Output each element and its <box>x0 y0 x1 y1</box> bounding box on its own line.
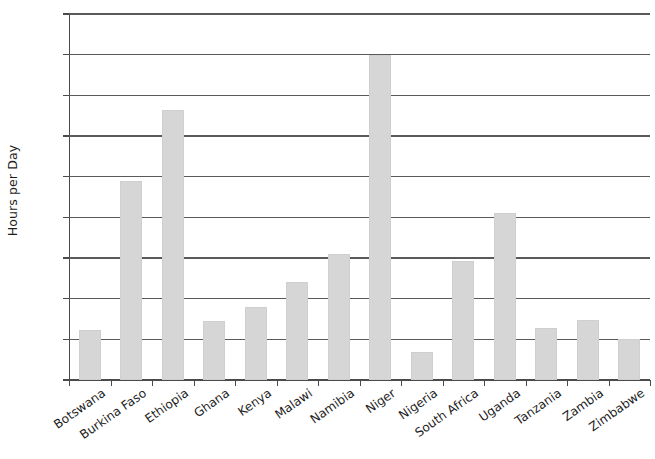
x-axis-labels-group: BotswanaBurkina FasoEthiopiaGhanaKenyaMa… <box>69 386 650 459</box>
bars-group <box>69 14 650 380</box>
bar <box>369 55 391 380</box>
y-axis-title-text: Hours per Day <box>6 144 21 235</box>
bar <box>162 110 184 380</box>
bar <box>452 261 474 380</box>
plot-area: 4.54.03.53.02.52.01.51.00.50.0 <box>69 14 650 380</box>
y-axis-title: Hours per Day <box>0 0 26 380</box>
bar <box>120 181 142 380</box>
x-tick-label-text: Niger <box>363 386 398 416</box>
bar <box>79 330 101 380</box>
bar <box>328 254 350 380</box>
bar <box>494 213 516 380</box>
